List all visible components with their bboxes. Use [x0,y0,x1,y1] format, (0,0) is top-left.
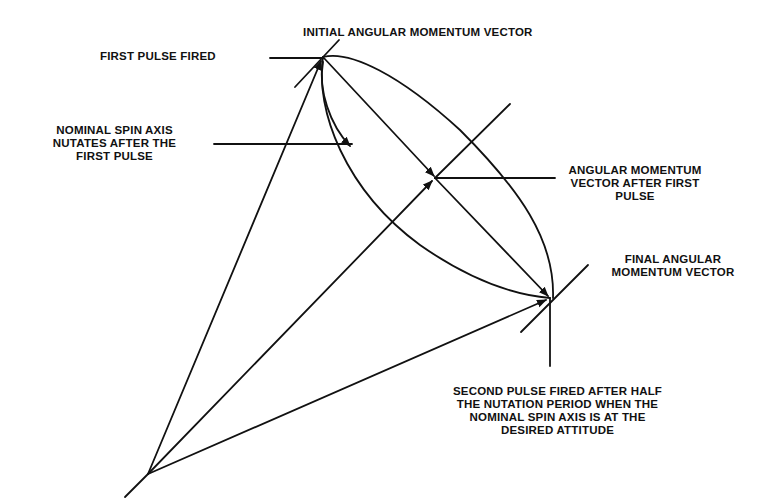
label-first-pulse: FIRST PULSE FIRED [100,50,216,63]
initial-vector-line [148,61,321,474]
label-second-pulse: SECOND PULSE FIRED AFTER HALF THE NUTATI… [425,385,690,437]
nutation-arrow [322,62,350,146]
label-nutation: NOMINAL SPIN AXIS NUTATES AFTER THE FIRS… [32,124,197,163]
nutation-ellipse-outer [323,56,553,298]
apex-extension-line [125,474,148,497]
after-first-cross-line [435,104,510,178]
label-initial-vector: INITIAL ANGULAR MOMENTUM VECTOR [303,26,533,39]
label-final-vector: FINAL ANGULAR MOMENTUM VECTOR [598,253,748,279]
initial-cross-tick [295,40,339,87]
after-first-vector-line [148,181,432,474]
label-after-first: ANGULAR MOMENTUM VECTOR AFTER FIRST PULS… [560,164,710,203]
momentum-chord-lower [435,178,548,296]
momentum-chord [323,57,434,176]
final-cross-tick [521,265,588,332]
